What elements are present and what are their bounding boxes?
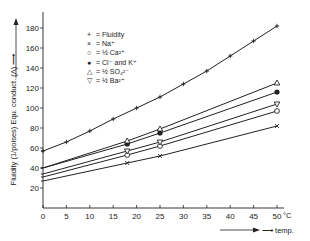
y-axis-label: Fluidity (1/poises) Equ. conduct. (Λ) ⟶ xyxy=(9,45,18,195)
triangle-up-marker-icon xyxy=(274,80,280,85)
x-tick-label: 45 xyxy=(249,212,258,221)
chart-legend: + = Fluidity × = Na⁺ ○ = ½ Ca²⁺ ● = Cl⁻ … xyxy=(84,30,137,85)
x-tick-label: 5 xyxy=(64,212,69,221)
plus-marker-icon xyxy=(64,140,68,144)
legend-item-na: × = Na⁺ xyxy=(84,39,137,48)
legend-item-cl-k: ● = Cl⁻ and K⁺ xyxy=(84,58,137,67)
plus-marker-icon: + xyxy=(84,30,94,39)
x-axis-label: ⟶ temp. xyxy=(262,226,294,235)
legend-item-ca: ○ = ½ Ca²⁺ xyxy=(84,48,137,57)
x-tick-label: 30 xyxy=(179,212,188,221)
circle-marker-icon xyxy=(275,109,280,114)
x-tick-label: 10 xyxy=(85,212,94,221)
y-tick-label: 100 xyxy=(26,104,40,113)
x-tick-label: 50 xyxy=(273,212,282,221)
x-axis-unit: °C xyxy=(283,211,291,220)
triangle-down-marker-icon: ▽ xyxy=(84,76,94,85)
y-tick-label: 160 xyxy=(26,44,40,53)
circle-marker-icon: ○ xyxy=(84,48,94,57)
plus-marker-icon xyxy=(181,82,185,86)
line-chart: 2040608010012014016018005101520253035404… xyxy=(0,0,310,241)
cross-marker-icon: × xyxy=(84,39,94,48)
plus-marker-icon xyxy=(134,106,138,110)
x-tick-label: 20 xyxy=(132,212,141,221)
y-tick-label: 40 xyxy=(30,164,39,173)
legend-item-fluidity: + = Fluidity xyxy=(84,30,137,39)
triangle-up-marker-icon: △ xyxy=(84,67,94,76)
plus-marker-icon xyxy=(158,95,162,99)
legend-item-so4: △ = ½ SO₄²⁻ xyxy=(84,67,137,76)
x-tick-label: 15 xyxy=(109,212,118,221)
y-tick-label: 140 xyxy=(26,64,40,73)
plus-marker-icon xyxy=(88,129,92,133)
series-line xyxy=(41,104,277,174)
filled-circle-marker-icon xyxy=(274,89,279,94)
x-tick-label: 0 xyxy=(41,212,46,221)
x-arrow-icon xyxy=(253,228,260,233)
legend-item-ba: ▽ = ½ Ba²⁺ xyxy=(84,76,137,85)
x-tick-label: 25 xyxy=(156,212,165,221)
y-tick-label: 60 xyxy=(30,144,39,153)
plus-marker-icon xyxy=(111,117,115,121)
y-tick-label: 20 xyxy=(30,184,39,193)
y-tick-label: 120 xyxy=(26,84,40,93)
y-tick-label: 180 xyxy=(26,24,40,33)
filled-circle-marker-icon: ● xyxy=(84,58,94,67)
y-arrow-icon xyxy=(14,18,19,25)
x-tick-label: 40 xyxy=(226,212,235,221)
x-tick-label: 35 xyxy=(202,212,211,221)
y-tick-label: 80 xyxy=(30,124,39,133)
plus-marker-icon xyxy=(41,149,45,153)
